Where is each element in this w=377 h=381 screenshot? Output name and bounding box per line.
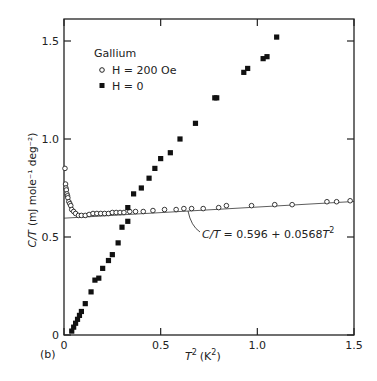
- plot-frame: [64, 19, 354, 335]
- data-point: [249, 203, 254, 208]
- y-tick-label: 0: [52, 329, 59, 342]
- data-point: [146, 176, 151, 181]
- x-tick-label: 0: [61, 339, 68, 352]
- data-point: [83, 301, 88, 306]
- data-point: [106, 258, 111, 263]
- data-point: [133, 209, 138, 214]
- x-tick-label: 1.0: [249, 339, 267, 352]
- data-point: [125, 205, 130, 210]
- x-axis-label: T2(K2): [185, 348, 221, 363]
- filled-square-marker-icon: [100, 83, 105, 88]
- data-point: [348, 198, 353, 203]
- chart: 00.51.01.500.51.01.5 Gallium H = 200 Oe …: [0, 0, 377, 381]
- data-point: [272, 202, 277, 207]
- data-point: [119, 225, 124, 230]
- data-point: [193, 121, 198, 126]
- y-tick-label: 1.5: [42, 35, 60, 48]
- open-circle-marker-icon: [100, 68, 105, 73]
- legend-item-h-200-oe: H = 200 Oe: [112, 64, 177, 77]
- y-tick-label: 0.5: [42, 231, 60, 244]
- data-point: [96, 276, 101, 281]
- data-point: [110, 252, 115, 257]
- data-point: [162, 207, 167, 212]
- data-point: [141, 209, 146, 214]
- data-point: [290, 202, 295, 207]
- data-point: [245, 66, 250, 71]
- legend-item-h-0: H = 0: [112, 80, 143, 93]
- data-point: [63, 166, 68, 171]
- data-point: [264, 54, 269, 59]
- data-point: [131, 191, 136, 196]
- data-point: [125, 219, 130, 224]
- fit-equation-label: C/T = 0.596 + 0.0568T2: [202, 226, 334, 241]
- series-h-0: [69, 34, 279, 333]
- data-point: [79, 309, 84, 314]
- data-point: [100, 266, 105, 271]
- data-point: [174, 207, 179, 212]
- axis-ticks: 00.51.01.500.51.01.5: [42, 19, 363, 352]
- x-tick-label: 1.5: [345, 339, 363, 352]
- legend-title: Gallium: [94, 47, 136, 60]
- y-tick-label: 1.0: [42, 133, 60, 146]
- data-point: [182, 206, 187, 211]
- data-point: [224, 203, 229, 208]
- legend: Gallium H = 200 Oe H = 0: [94, 47, 177, 93]
- data-point: [88, 289, 93, 294]
- data-point: [325, 199, 330, 204]
- data-point: [158, 156, 163, 161]
- data-point: [274, 34, 279, 39]
- data-point: [116, 240, 121, 245]
- panel-label: (b): [40, 348, 56, 361]
- data-point: [334, 199, 339, 204]
- data-point: [201, 206, 206, 211]
- data-point: [216, 205, 221, 210]
- x-tick-label: 0.5: [152, 339, 170, 352]
- plot-axes: [64, 19, 354, 335]
- data-point: [168, 150, 173, 155]
- data-point: [214, 95, 219, 100]
- fit-annotation-arrow: [188, 211, 200, 232]
- y-axis-label: C/T(mJ mole⁻¹ deg⁻²): [26, 133, 38, 248]
- data-point: [189, 206, 194, 211]
- data-point: [151, 208, 156, 213]
- data-point: [139, 185, 144, 190]
- data-point: [122, 210, 127, 215]
- data-point: [152, 166, 157, 171]
- data-point: [177, 136, 182, 141]
